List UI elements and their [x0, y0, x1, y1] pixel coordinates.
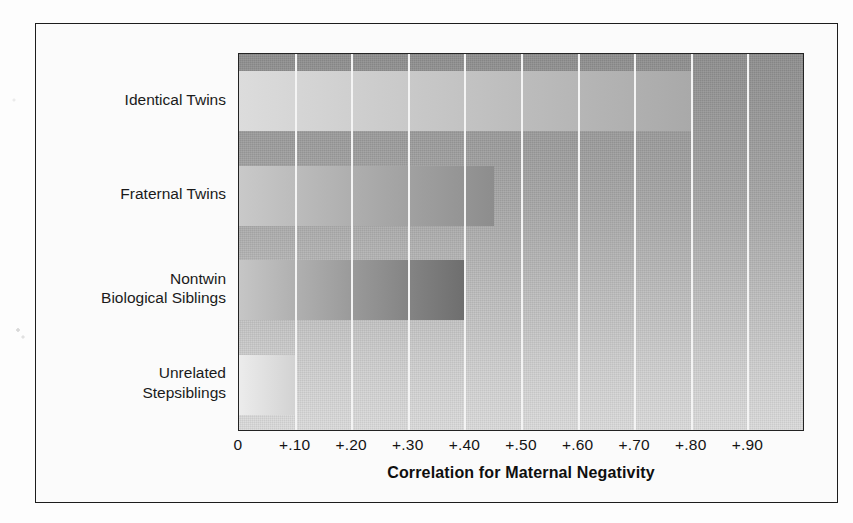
- x-tick-label: +.40: [449, 436, 480, 454]
- x-tick-label: +.60: [562, 436, 593, 454]
- category-label: Unrelated Stepsiblings: [36, 363, 226, 402]
- gridline: [295, 54, 297, 430]
- gridline: [634, 54, 636, 430]
- bar: [239, 166, 494, 226]
- x-tick-label: +.50: [505, 436, 536, 454]
- gridline: [521, 54, 523, 430]
- x-tick-label: +.20: [335, 436, 366, 454]
- x-tick-label: +.90: [732, 436, 763, 454]
- x-tick-label: 0: [234, 436, 243, 454]
- gridline: [464, 54, 466, 430]
- category-label: Nontwin Biological Siblings: [36, 269, 226, 308]
- gridline: [408, 54, 410, 430]
- gridline: [691, 54, 693, 430]
- figure-card: Identical TwinsFraternal TwinsNontwin Bi…: [35, 23, 838, 503]
- plot-area: [238, 53, 804, 431]
- x-tick-label: +.10: [279, 436, 310, 454]
- x-tick-label: +.30: [392, 436, 423, 454]
- bar-chart-figure: Identical TwinsFraternal TwinsNontwin Bi…: [36, 24, 837, 502]
- x-tick-label: +.70: [618, 436, 649, 454]
- category-label: Fraternal Twins: [36, 184, 226, 204]
- category-label: Identical Twins: [36, 90, 226, 110]
- bar: [239, 355, 296, 415]
- gridline: [351, 54, 353, 430]
- x-tick-label: +.80: [675, 436, 706, 454]
- x-axis-title: Correlation for Maternal Negativity: [238, 464, 804, 482]
- page-background: Identical TwinsFraternal TwinsNontwin Bi…: [0, 0, 853, 523]
- gridline: [578, 54, 580, 430]
- gridline: [747, 54, 749, 430]
